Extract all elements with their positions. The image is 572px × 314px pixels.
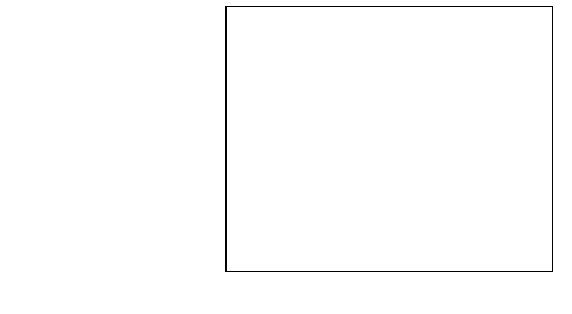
x-axis-tick-labels — [0, 280, 572, 296]
bar-chart — [0, 0, 572, 314]
chart-title — [0, 0, 572, 1]
bar-rows — [227, 7, 552, 271]
plot-area — [226, 6, 553, 272]
x-axis-ticks — [226, 272, 553, 279]
category-axis-labels — [0, 6, 219, 272]
